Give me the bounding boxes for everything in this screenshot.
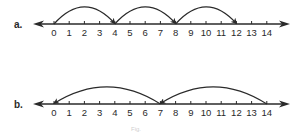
tick-labels: 01234567891011121314 (51, 107, 272, 118)
tick-label: 9 (188, 27, 193, 38)
tick-label: 5 (127, 27, 132, 38)
tick-label: 3 (97, 107, 102, 118)
tick-label: 14 (262, 107, 273, 118)
number-line-figure: a. 01234567891011121314 b. 0123456789101… (0, 0, 299, 136)
tick-label: 7 (158, 107, 163, 118)
tick-label: 7 (158, 27, 163, 38)
tick-label: 6 (143, 107, 148, 118)
part-label-b: b. (14, 99, 23, 110)
tick-label: 4 (112, 27, 117, 38)
tick-label: 2 (82, 107, 87, 118)
number-line-a: a. 01234567891011121314 (14, 7, 290, 38)
tick-label: 13 (246, 27, 257, 38)
tick-label: 11 (216, 27, 226, 38)
tick-label: 1 (67, 27, 72, 38)
tick-label: 8 (173, 107, 178, 118)
tick-label: 1 (67, 107, 72, 118)
tick-label: 5 (127, 107, 132, 118)
tick-label: 10 (201, 107, 212, 118)
tick-label: 14 (262, 27, 273, 38)
tick-label: 13 (246, 107, 257, 118)
tick-label: 12 (231, 27, 242, 38)
tick-label: 9 (188, 107, 193, 118)
number-line-b: b. 01234567891011121314 (14, 87, 290, 118)
tick-label: 4 (112, 107, 117, 118)
jump-arc (54, 87, 160, 104)
tick-labels: 01234567891011121314 (51, 27, 272, 38)
tick-label: 3 (97, 27, 102, 38)
number-line-diagram: a. 01234567891011121314 b. 0123456789101… (0, 0, 299, 136)
jump-arc (160, 87, 266, 104)
tick-label: 12 (231, 107, 242, 118)
figure-caption: Fig. (131, 126, 141, 132)
tick-label: 2 (82, 27, 87, 38)
tick-label: 11 (216, 107, 226, 118)
part-label-a: a. (14, 19, 23, 30)
tick-label: 10 (201, 27, 212, 38)
tick-label: 6 (143, 27, 148, 38)
tick-label: 0 (51, 107, 56, 118)
tick-label: 0 (51, 27, 56, 38)
tick-label: 8 (173, 27, 178, 38)
